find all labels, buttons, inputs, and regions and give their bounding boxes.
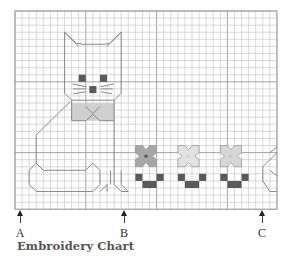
marker-arrow-c <box>262 215 263 223</box>
marker-arrow-b <box>124 215 125 223</box>
embroidery-grid <box>0 0 292 261</box>
marker-label-c: C <box>255 226 269 241</box>
chart-title: Embroidery Chart <box>17 239 134 253</box>
backstitch-outlines <box>29 32 277 191</box>
grid-lines <box>15 11 277 209</box>
marker-arrow-a <box>20 215 21 223</box>
